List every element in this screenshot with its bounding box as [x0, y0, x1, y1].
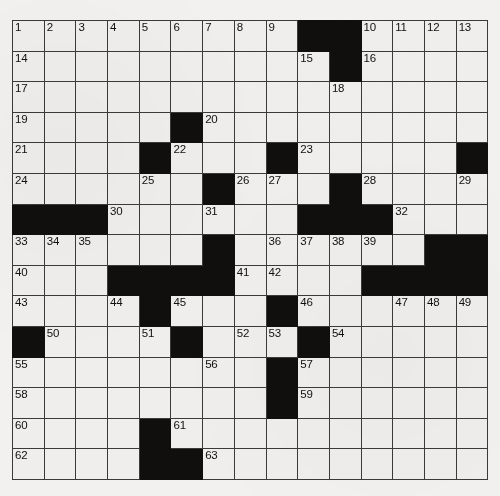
letter-cell[interactable]: [393, 326, 425, 357]
letter-cell[interactable]: [234, 296, 266, 327]
letter-cell[interactable]: 23: [298, 143, 330, 174]
letter-cell[interactable]: [203, 82, 235, 113]
letter-cell[interactable]: [393, 173, 425, 204]
letter-cell[interactable]: 11: [393, 21, 425, 52]
letter-cell[interactable]: 6: [171, 21, 203, 52]
letter-cell[interactable]: [234, 388, 266, 419]
letter-cell[interactable]: [393, 143, 425, 174]
letter-cell[interactable]: [456, 326, 488, 357]
letter-cell[interactable]: [203, 326, 235, 357]
letter-cell[interactable]: [456, 357, 488, 388]
letter-cell[interactable]: 1: [13, 21, 45, 52]
letter-cell[interactable]: [456, 51, 488, 82]
letter-cell[interactable]: [361, 449, 393, 480]
letter-cell[interactable]: [108, 173, 140, 204]
letter-cell[interactable]: 62: [13, 449, 45, 480]
letter-cell[interactable]: 16: [361, 51, 393, 82]
letter-cell[interactable]: [424, 173, 456, 204]
letter-cell[interactable]: [424, 449, 456, 480]
letter-cell[interactable]: [108, 112, 140, 143]
letter-cell[interactable]: [171, 235, 203, 266]
letter-cell[interactable]: [393, 235, 425, 266]
letter-cell[interactable]: [393, 418, 425, 449]
letter-cell[interactable]: [456, 112, 488, 143]
letter-cell[interactable]: [44, 51, 76, 82]
letter-cell[interactable]: [393, 357, 425, 388]
letter-cell[interactable]: [139, 388, 171, 419]
letter-cell[interactable]: 59: [298, 388, 330, 419]
letter-cell[interactable]: [456, 388, 488, 419]
letter-cell[interactable]: [266, 82, 298, 113]
letter-cell[interactable]: 30: [108, 204, 140, 235]
letter-cell[interactable]: [361, 326, 393, 357]
letter-cell[interactable]: [171, 173, 203, 204]
letter-cell[interactable]: [424, 51, 456, 82]
crossword-grid[interactable]: 1234567891011121314151617181920212223242…: [12, 20, 488, 480]
letter-cell[interactable]: [44, 112, 76, 143]
letter-cell[interactable]: [44, 418, 76, 449]
letter-cell[interactable]: [76, 112, 108, 143]
letter-cell[interactable]: [393, 51, 425, 82]
letter-cell[interactable]: 31: [203, 204, 235, 235]
letter-cell[interactable]: [108, 143, 140, 174]
letter-cell[interactable]: [108, 418, 140, 449]
letter-cell[interactable]: [171, 51, 203, 82]
letter-cell[interactable]: [76, 296, 108, 327]
letter-cell[interactable]: [298, 112, 330, 143]
letter-cell[interactable]: 29: [456, 173, 488, 204]
letter-cell[interactable]: [266, 112, 298, 143]
letter-cell[interactable]: [44, 173, 76, 204]
letter-cell[interactable]: 54: [329, 326, 361, 357]
letter-cell[interactable]: [108, 357, 140, 388]
letter-cell[interactable]: [76, 265, 108, 296]
letter-cell[interactable]: [203, 388, 235, 419]
letter-cell[interactable]: [424, 112, 456, 143]
letter-cell[interactable]: 22: [171, 143, 203, 174]
letter-cell[interactable]: [393, 112, 425, 143]
letter-cell[interactable]: [108, 82, 140, 113]
letter-cell[interactable]: 37: [298, 235, 330, 266]
letter-cell[interactable]: 9: [266, 21, 298, 52]
letter-cell[interactable]: 14: [13, 51, 45, 82]
letter-cell[interactable]: [234, 449, 266, 480]
letter-cell[interactable]: [329, 296, 361, 327]
letter-cell[interactable]: [203, 51, 235, 82]
letter-cell[interactable]: [108, 235, 140, 266]
letter-cell[interactable]: 8: [234, 21, 266, 52]
letter-cell[interactable]: [44, 82, 76, 113]
letter-cell[interactable]: [171, 82, 203, 113]
letter-cell[interactable]: [44, 296, 76, 327]
letter-cell[interactable]: [234, 143, 266, 174]
letter-cell[interactable]: [139, 204, 171, 235]
letter-cell[interactable]: [44, 449, 76, 480]
letter-cell[interactable]: [108, 388, 140, 419]
letter-cell[interactable]: 57: [298, 357, 330, 388]
letter-cell[interactable]: 52: [234, 326, 266, 357]
letter-cell[interactable]: 63: [203, 449, 235, 480]
letter-cell[interactable]: [424, 82, 456, 113]
letter-cell[interactable]: [234, 51, 266, 82]
letter-cell[interactable]: 56: [203, 357, 235, 388]
letter-cell[interactable]: [76, 326, 108, 357]
letter-cell[interactable]: [329, 357, 361, 388]
letter-cell[interactable]: [234, 418, 266, 449]
letter-cell[interactable]: 28: [361, 173, 393, 204]
letter-cell[interactable]: [171, 204, 203, 235]
letter-cell[interactable]: [393, 388, 425, 419]
letter-cell[interactable]: [171, 388, 203, 419]
letter-cell[interactable]: 35: [76, 235, 108, 266]
letter-cell[interactable]: [234, 112, 266, 143]
letter-cell[interactable]: [266, 418, 298, 449]
letter-cell[interactable]: 26: [234, 173, 266, 204]
letter-cell[interactable]: 49: [456, 296, 488, 327]
letter-cell[interactable]: 12: [424, 21, 456, 52]
letter-cell[interactable]: [139, 112, 171, 143]
letter-cell[interactable]: [298, 82, 330, 113]
letter-cell[interactable]: 50: [44, 326, 76, 357]
letter-cell[interactable]: 32: [393, 204, 425, 235]
letter-cell[interactable]: 2: [44, 21, 76, 52]
letter-cell[interactable]: [329, 418, 361, 449]
letter-cell[interactable]: [424, 388, 456, 419]
letter-cell[interactable]: [329, 143, 361, 174]
letter-cell[interactable]: [266, 51, 298, 82]
